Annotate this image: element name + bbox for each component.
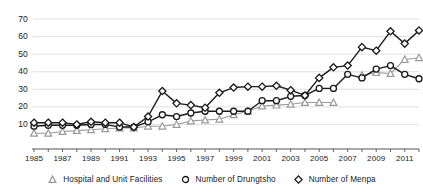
y-axis-tick-label: 40 [2, 66, 28, 76]
x-axis-tick-label: 2007 [333, 154, 363, 163]
y-axis-tick-label: 70 [2, 14, 28, 24]
data-point-marker [216, 108, 222, 114]
data-point-marker [295, 175, 302, 182]
triangle-marker-icon [47, 174, 58, 185]
circle-marker-icon [180, 174, 191, 185]
data-point-marker [287, 87, 294, 94]
data-point-marker [416, 54, 423, 60]
x-axis-tick-label: 1985 [19, 154, 49, 163]
data-point-marker [316, 99, 323, 105]
data-point-marker [245, 108, 251, 114]
data-point-marker [401, 56, 408, 62]
data-point-marker [231, 108, 237, 114]
data-point-marker [273, 98, 279, 104]
data-point-marker [174, 114, 180, 120]
data-point-marker [287, 101, 294, 107]
chart-container: 70605040302010 1985198719891991199319951… [0, 0, 423, 194]
data-point-marker [188, 110, 194, 116]
data-point-marker [273, 82, 280, 89]
legend-label: Number of Drungtsho [196, 175, 276, 184]
y-axis-tick-label: 30 [2, 84, 28, 94]
chart-legend: Hospital and Unit FacilitiesNumber of Dr… [0, 168, 423, 190]
data-point-marker [202, 117, 209, 123]
legend-label: Number of Menpa [309, 175, 376, 184]
x-axis-tick-label: 1989 [76, 154, 106, 163]
data-point-marker [359, 75, 365, 81]
x-axis-tick-label: 1999 [219, 154, 249, 163]
x-axis-tick-label: 1991 [105, 154, 135, 163]
legend-item[interactable]: Hospital and Unit Facilities [47, 174, 162, 185]
data-point-marker [302, 99, 309, 105]
y-axis-tick-label: 60 [2, 31, 28, 41]
x-axis-tick-label: 1995 [162, 154, 192, 163]
data-point-marker [187, 102, 194, 109]
x-axis-tick-label: 1993 [133, 154, 163, 163]
data-point-marker [416, 76, 422, 82]
data-point-marker [216, 116, 223, 122]
legend-item[interactable]: Number of Menpa [293, 174, 376, 185]
data-point-marker [49, 176, 56, 182]
data-point-marker [316, 85, 322, 91]
data-point-marker [159, 123, 166, 129]
data-point-marker [182, 176, 188, 182]
x-axis-tick-label: 2011 [390, 154, 420, 163]
diamond-marker-icon [293, 174, 304, 185]
data-point-marker [187, 118, 194, 124]
line-chart-plot [0, 0, 423, 194]
legend-item[interactable]: Number of Drungtsho [180, 174, 276, 185]
data-point-marker [345, 71, 351, 77]
y-axis-tick-label: 20 [2, 101, 28, 111]
x-axis-tick-label: 1987 [48, 154, 78, 163]
y-axis-tick-label: 10 [2, 119, 28, 129]
data-point-marker [330, 85, 336, 91]
x-axis-tick-label: 1997 [190, 154, 220, 163]
data-point-marker [230, 84, 237, 91]
x-axis-tick-label: 2003 [276, 154, 306, 163]
data-point-marker [159, 112, 165, 118]
data-point-marker [373, 66, 379, 72]
legend-label: Hospital and Unit Facilities [63, 175, 162, 184]
data-point-marker [45, 130, 52, 136]
x-axis-tick-label: 2001 [247, 154, 277, 163]
data-point-marker [387, 63, 393, 69]
x-axis-tick-label: 2005 [304, 154, 334, 163]
data-point-marker [259, 98, 265, 104]
data-point-marker [330, 99, 337, 105]
data-point-marker [402, 71, 408, 77]
data-point-marker [59, 128, 66, 134]
y-axis-tick-label: 50 [2, 49, 28, 59]
data-point-marker [31, 130, 38, 136]
data-point-marker [173, 121, 180, 127]
x-axis-tick-label: 2009 [361, 154, 391, 163]
